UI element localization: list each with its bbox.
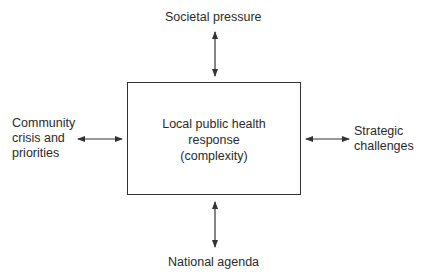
connector-arrows <box>0 0 427 276</box>
